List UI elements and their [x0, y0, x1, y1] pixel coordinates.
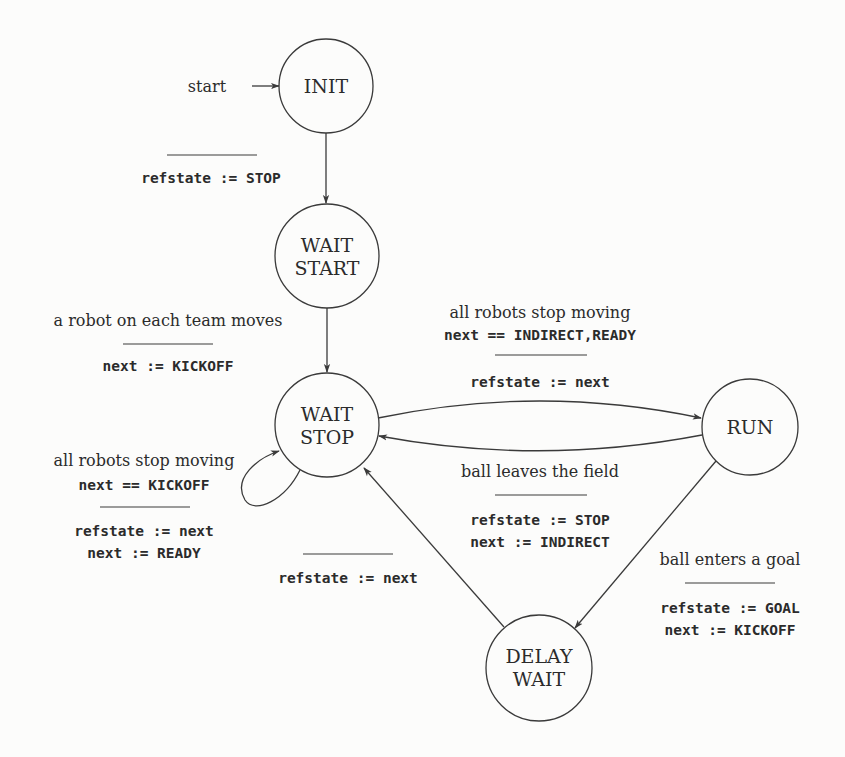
- state-label-line-2: STOP: [300, 426, 354, 448]
- state-label: INIT: [304, 75, 349, 97]
- label-run-to-delay-wait: ball enters a goal refstate := GOAL next…: [660, 550, 801, 638]
- state-label-line-1: WAIT: [301, 403, 354, 425]
- guard-text-line-2: next == INDIRECT,READY: [444, 327, 636, 343]
- label-wait-stop-to-run: all robots stop moving next == INDIRECT,…: [444, 303, 636, 390]
- state-circle: [275, 204, 379, 308]
- state-label-line-2: START: [294, 257, 359, 279]
- edge-wait-stop-to-run-arrow-icon: [378, 401, 701, 418]
- start-label: start: [188, 77, 227, 96]
- state-wait-stop[interactable]: WAIT STOP: [275, 373, 379, 477]
- action-text: refstate := next: [470, 374, 610, 390]
- action-text-line-1: refstate := GOAL: [660, 600, 800, 616]
- state-circle: [275, 373, 379, 477]
- diagram-canvas: start INIT WAIT START WAIT STOP RUN DELA…: [0, 0, 845, 757]
- action-text: refstate := next: [278, 570, 418, 586]
- label-delay-wait-to-wait-stop: refstate := next: [278, 554, 418, 586]
- label-wait-stop-self-loop: all robots stop moving next == KICKOFF r…: [54, 451, 235, 561]
- state-wait-start[interactable]: WAIT START: [275, 204, 379, 308]
- action-text: refstate := STOP: [141, 170, 281, 186]
- state-label-line-2: WAIT: [513, 668, 566, 690]
- guard-text-line-2: next == KICKOFF: [79, 477, 210, 493]
- edge-run-to-wait-stop-arrow-icon: [379, 435, 702, 451]
- guard-text: a robot on each team moves: [54, 311, 283, 330]
- guard-text: ball enters a goal: [660, 550, 801, 569]
- state-machine-diagram: start INIT WAIT START WAIT STOP RUN DELA…: [0, 0, 845, 757]
- state-run[interactable]: RUN: [702, 379, 798, 475]
- action-text-line-2: next := KICKOFF: [665, 622, 796, 638]
- edge-wait-stop-self-loop-arrow-icon: [242, 451, 300, 506]
- state-delay-wait[interactable]: DELAY WAIT: [486, 615, 592, 721]
- action-text-line-2: next := READY: [87, 545, 201, 561]
- guard-text-line-1: all robots stop moving: [54, 451, 235, 470]
- guard-text-line-1: all robots stop moving: [450, 303, 631, 322]
- label-run-to-wait-stop: ball leaves the field refstate := STOP n…: [461, 462, 619, 550]
- action-text-line-2: next := INDIRECT: [470, 534, 610, 550]
- state-label-line-1: DELAY: [505, 645, 573, 667]
- action-text: next := KICKOFF: [103, 358, 234, 374]
- state-label-line-1: WAIT: [301, 234, 354, 256]
- action-text-line-1: refstate := next: [74, 523, 214, 539]
- action-text-line-1: refstate := STOP: [470, 512, 610, 528]
- state-label: RUN: [727, 416, 774, 438]
- label-init-to-wait-start: refstate := STOP: [141, 155, 281, 186]
- start-indicator: start: [188, 77, 279, 96]
- state-init[interactable]: INIT: [279, 39, 373, 133]
- guard-text: ball leaves the field: [461, 462, 619, 481]
- label-wait-start-to-wait-stop: a robot on each team moves next := KICKO…: [54, 311, 283, 374]
